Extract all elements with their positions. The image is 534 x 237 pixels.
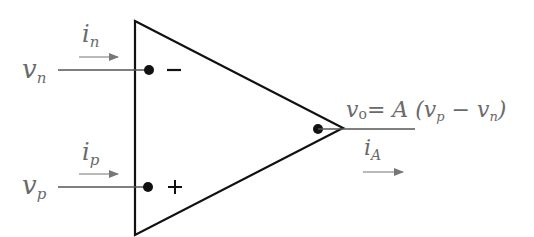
output-equation: vo= A (vp − vn) — [346, 99, 506, 121]
op-amp-triangle — [135, 21, 343, 235]
label-ip: ip — [82, 140, 99, 164]
label-vn: vn — [22, 56, 46, 82]
noninverting-terminal-dot — [143, 182, 153, 192]
label-ia: iA — [364, 137, 381, 159]
label-in: in — [82, 22, 99, 46]
op-amp-diagram: vn in vp ip vo= A (vp − vn) iA — [0, 0, 534, 237]
label-vp: vp — [22, 172, 46, 198]
inverting-terminal-dot — [144, 65, 154, 75]
